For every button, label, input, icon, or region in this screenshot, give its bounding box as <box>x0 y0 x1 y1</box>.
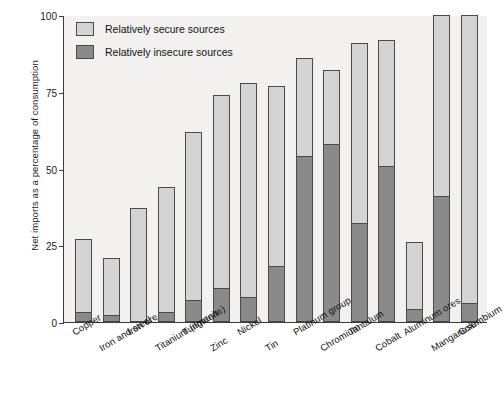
stacked-bar[interactable] <box>268 86 285 322</box>
bar-segment-insecure <box>352 223 367 321</box>
plot-area: 0255075100 Relatively secure sources Rel… <box>63 16 487 323</box>
legend-item-secure: Relatively secure sources <box>76 22 233 36</box>
y-tick-label: 50 <box>46 164 57 175</box>
stacked-bar[interactable] <box>296 58 313 322</box>
bar-segment-secure <box>159 188 174 312</box>
bar-slot <box>373 16 401 322</box>
stacked-bar[interactable] <box>433 15 450 322</box>
y-tick-label: 100 <box>40 11 57 22</box>
bar-segment-secure <box>352 44 367 224</box>
legend-label-insecure: Relatively insecure sources <box>105 46 233 58</box>
stacked-bar[interactable] <box>213 95 230 322</box>
y-axis-title: Net imports as a percentage of consumpti… <box>29 26 40 286</box>
legend-label-secure: Relatively secure sources <box>105 23 225 35</box>
bar-segment-secure <box>297 59 312 156</box>
bar-segment-secure <box>241 84 256 297</box>
bar-segment-secure <box>76 240 91 312</box>
stacked-bar[interactable] <box>351 43 368 322</box>
y-tick-label: 0 <box>51 318 57 329</box>
bar-segment-secure <box>434 16 449 196</box>
bar-segment-insecure <box>297 156 312 321</box>
bar-segment-insecure <box>324 144 339 321</box>
legend-swatch-insecure-icon <box>76 45 94 59</box>
bar-segment-secure <box>407 243 422 309</box>
bar-slot <box>318 16 346 322</box>
bar-segment-secure <box>104 259 119 316</box>
bar-segment-secure <box>324 71 339 144</box>
bar-segment-secure <box>269 87 284 267</box>
x-axis-label: Cobalt <box>373 330 403 354</box>
bar-slot <box>263 16 291 322</box>
x-axis-labels: CopperIron and steelIron oreTitanium (il… <box>63 325 487 408</box>
bar-slot <box>428 16 456 322</box>
x-axis-label: Tin <box>263 337 280 353</box>
stacked-bar[interactable] <box>378 40 395 322</box>
bar-segment-insecure <box>104 315 119 321</box>
y-tick-label: 75 <box>46 87 57 98</box>
stacked-bar[interactable] <box>103 258 120 322</box>
bar-slot <box>290 16 318 322</box>
bar-slot <box>400 16 428 322</box>
bar-segment-insecure <box>379 166 394 321</box>
bar-segment-secure <box>214 96 229 288</box>
stacked-bar[interactable] <box>75 239 92 322</box>
stacked-bar[interactable] <box>130 208 147 322</box>
bar-slot <box>345 16 373 322</box>
y-tick-mark <box>59 323 64 324</box>
stacked-bar[interactable] <box>323 70 340 322</box>
bar-segment-secure <box>379 41 394 166</box>
stacked-bar[interactable] <box>406 242 423 322</box>
bar-segment-secure <box>186 133 201 300</box>
legend-item-insecure: Relatively insecure sources <box>76 45 233 59</box>
bar-slot <box>235 16 263 322</box>
legend-swatch-secure-icon <box>76 22 94 36</box>
bar-segment-insecure <box>159 312 174 321</box>
bar-segment-secure <box>462 16 477 303</box>
bar-segment-insecure <box>269 266 284 321</box>
bar-segment-secure <box>131 209 146 321</box>
x-axis-label: Zinc <box>208 335 229 354</box>
chart-legend: Relatively secure sources Relatively ins… <box>76 22 233 68</box>
stacked-bar[interactable] <box>185 132 202 322</box>
stacked-bar[interactable] <box>240 83 257 322</box>
y-tick-label: 25 <box>46 241 57 252</box>
stacked-bar[interactable] <box>158 187 175 322</box>
stacked-bar[interactable] <box>461 15 478 322</box>
bar-slot <box>455 16 483 322</box>
